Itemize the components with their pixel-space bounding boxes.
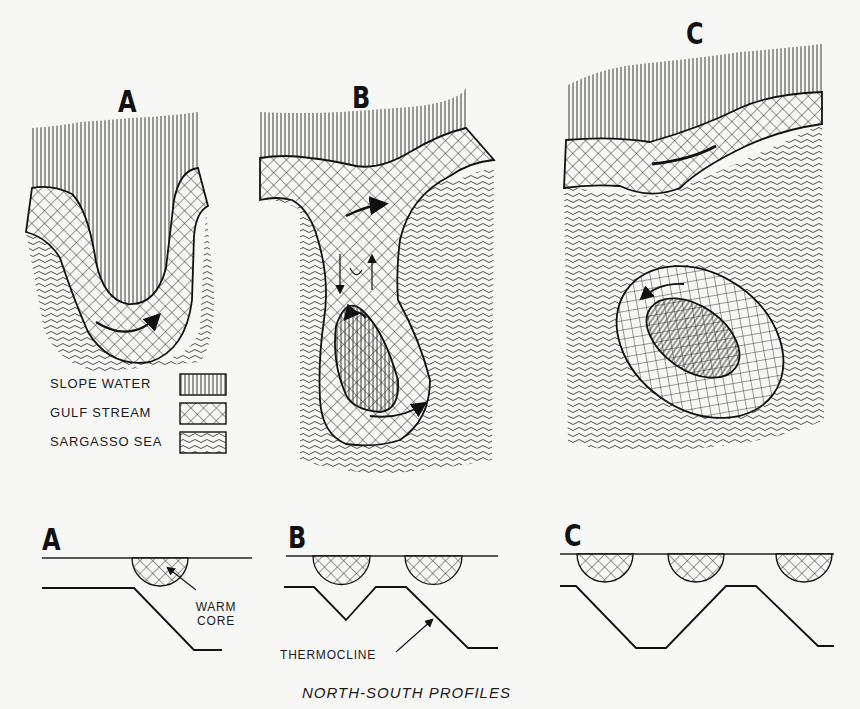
warm-core-c1 (577, 554, 633, 582)
plan-view-c (564, 44, 824, 451)
profile-label-c: C (564, 518, 582, 553)
warm-core-annotation: WARM CORE (188, 600, 244, 628)
plan-view-label-a: A (118, 84, 137, 119)
thermocline-b (284, 587, 498, 648)
profile-label-a: A (42, 522, 61, 557)
legend-label-slope-water: SLOPE WATER (50, 376, 151, 391)
legend (180, 374, 226, 453)
warm-core-a (132, 558, 188, 586)
plan-view-a (26, 112, 214, 372)
thermocline-pointer (396, 620, 432, 652)
warm-core-b1 (313, 556, 370, 585)
legend-swatch-sargasso-sea (180, 432, 226, 453)
plan-view-label-c: C (686, 16, 704, 51)
plan-view-label-b: B (352, 80, 370, 115)
thermocline-c (560, 586, 834, 648)
legend-swatch-slope-water (180, 374, 226, 395)
legend-swatch-gulf-stream (180, 403, 226, 424)
warm-core-annotation-line2: CORE (188, 614, 244, 628)
legend-label-gulf-stream: GULF STREAM (50, 405, 151, 420)
profile-b (284, 556, 498, 652)
profiles-caption: NORTH-SOUTH PROFILES (302, 684, 511, 701)
warm-core-annotation-line1: WARM (188, 600, 244, 614)
warm-core-b2 (405, 556, 462, 584)
warm-core-c2 (668, 554, 724, 582)
profile-label-b: B (288, 520, 306, 555)
legend-label-sargasso-sea: SARGASSO SEA (50, 434, 162, 449)
plan-view-b (260, 88, 494, 474)
thermocline-annotation: THERMOCLINE (280, 648, 376, 662)
warm-core-c3 (776, 554, 832, 582)
profile-c (560, 554, 834, 648)
